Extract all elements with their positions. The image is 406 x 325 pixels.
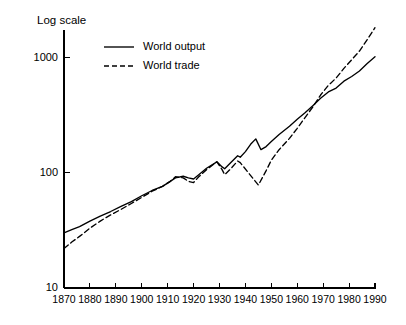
x-tick-label: 1930 xyxy=(208,293,232,305)
legend-label-world-output: World output xyxy=(143,40,205,52)
x-tick-label: 1920 xyxy=(182,293,206,305)
y-tick-label: 1000 xyxy=(34,51,58,63)
x-axis-ticks: 1870188018901900191019201930194019501960… xyxy=(52,283,387,305)
x-tick-label: 1980 xyxy=(337,293,361,305)
x-tick-label: 1970 xyxy=(311,293,335,305)
series-line-world-trade xyxy=(64,28,375,249)
x-tick-label: 1940 xyxy=(234,293,258,305)
chart-container: 101001000 187018801890190019101920193019… xyxy=(0,0,406,325)
line-chart: 101001000 187018801890190019101920193019… xyxy=(0,0,406,325)
x-tick-label: 1910 xyxy=(156,293,180,305)
chart-axes xyxy=(64,30,376,288)
x-tick-label: 1870 xyxy=(52,293,76,305)
x-tick-label: 1950 xyxy=(260,293,284,305)
x-tick-label: 1890 xyxy=(104,293,128,305)
legend-label-world-trade: World trade xyxy=(143,59,200,71)
chart-legend: World outputWorld trade xyxy=(104,40,205,71)
series-paths xyxy=(64,28,375,249)
x-tick-label: 1960 xyxy=(286,293,310,305)
x-tick-label: 1880 xyxy=(78,293,102,305)
y-axis-title: Log scale xyxy=(37,14,86,26)
x-tick-label: 1900 xyxy=(130,293,154,305)
y-tick-label: 10 xyxy=(46,281,58,293)
x-tick-label: 1990 xyxy=(363,293,387,305)
series-line-world-output xyxy=(64,57,375,233)
y-tick-label: 100 xyxy=(40,166,58,178)
